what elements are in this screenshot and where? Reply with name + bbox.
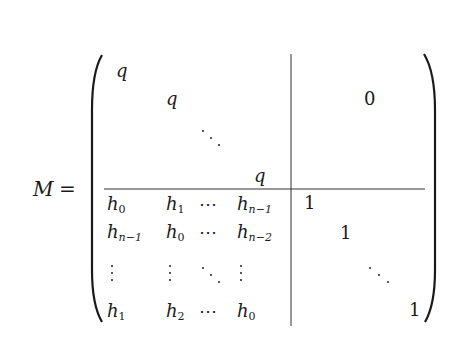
entry-hn1-r2: hn−1 [107, 223, 142, 243]
entry-h0-r2: h0 [166, 223, 185, 243]
entry-one-2: 1 [340, 224, 351, 242]
vdots-col2 [169, 265, 172, 286]
vdots-col4 [240, 265, 243, 286]
entry-one-1: 1 [304, 194, 315, 212]
cdots-r4: ⋯ [199, 302, 219, 320]
vdots-col1 [111, 265, 114, 286]
entry-h0-r1: h0 [107, 195, 126, 215]
entry-hn2-r2: hn−2 [237, 223, 272, 243]
entry-h1-r4: h1 [107, 302, 126, 322]
entry-q-1: q [116, 62, 128, 80]
entry-one-3: 1 [409, 301, 420, 319]
entry-h1-r1: h1 [166, 195, 185, 215]
entry-h0-r4: h0 [237, 302, 256, 322]
entry-hn1-r1: hn−1 [237, 195, 272, 215]
left-parenthesis [92, 55, 102, 322]
entry-q-2: q [166, 90, 178, 108]
entry-zero-block: 0 [364, 90, 375, 108]
cdots-r1: ⋯ [199, 195, 219, 213]
cdots-r2: ⋯ [199, 223, 219, 241]
matrix-brackets-and-dividers [0, 0, 457, 339]
right-parenthesis [424, 54, 435, 322]
entry-h2-r4: h2 [166, 302, 185, 322]
entry-q-3: q [254, 167, 266, 185]
